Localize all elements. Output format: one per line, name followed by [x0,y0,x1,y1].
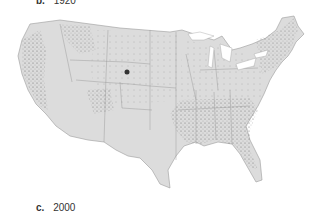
panel-year: 1920 [54,0,76,6]
panel-label-b: b. 1920 [36,0,76,6]
panel-letter: b. [36,0,45,6]
panel-label-c: c. 2000 [36,202,75,213]
panel-letter: c. [36,202,44,213]
panel-year: 2000 [53,202,75,213]
us-dot-map [0,10,319,195]
